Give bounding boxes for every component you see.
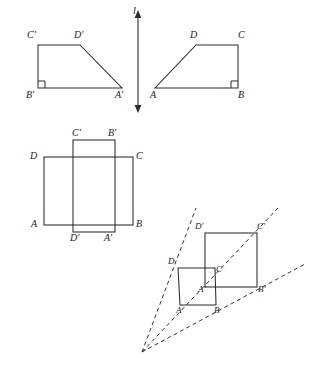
label-b-prime-dilation: B' [258, 285, 265, 294]
dilation-panel [142, 208, 305, 352]
label-d-dilation: D [168, 257, 175, 266]
label-b-square: B [136, 219, 142, 229]
label-a-square: A [31, 219, 37, 229]
label-d-trapezoid: D [190, 30, 197, 40]
trapezoid-preimage-outline [155, 45, 238, 88]
rotation-panel [44, 140, 133, 232]
mirror-line-l [135, 10, 142, 113]
trapezoid-image-outline [38, 45, 122, 88]
label-a-prime-dilation: A' [198, 285, 205, 294]
label-d-square: D [30, 151, 37, 161]
trapezoid-image [38, 45, 122, 88]
geometry-figure-canvas [0, 0, 312, 380]
label-a-prime-square: A' [104, 233, 112, 243]
trapezoid-preimage [155, 45, 238, 88]
label-b-dilation: B [214, 306, 220, 315]
ray-through-d-d-prime [142, 208, 196, 352]
square-abcd-outline [44, 157, 133, 225]
label-line-l: l [133, 6, 136, 17]
label-b-prime-square: B' [108, 128, 116, 138]
projection-rays [142, 208, 305, 352]
label-c-prime-dilation: C' [257, 222, 265, 231]
label-d-prime-trapezoid: D' [74, 30, 83, 40]
square-abcd-prime-outline [73, 140, 115, 232]
label-c-square: C [136, 151, 143, 161]
label-a-trapezoid: A [150, 90, 156, 100]
label-a-prime-trapezoid: A' [115, 90, 123, 100]
large-square-outline [205, 233, 257, 287]
label-b-trapezoid: B [238, 90, 244, 100]
label-d-prime-square: D' [70, 233, 79, 243]
label-c-trapezoid: C [238, 30, 245, 40]
right-angle-marker-b [231, 81, 238, 88]
label-c-prime-square: C' [72, 128, 81, 138]
label-d-prime-dilation: D' [195, 222, 203, 231]
label-a-dilation: A [176, 306, 182, 315]
arrowhead-down-icon [135, 105, 142, 113]
ray-through-b-b-prime [142, 264, 305, 352]
right-angle-marker-b-prime [38, 81, 45, 88]
label-c-prime-trapezoid: C' [27, 30, 36, 40]
label-b-prime-trapezoid: B' [26, 90, 34, 100]
reflection-panel [38, 10, 238, 113]
label-c-dilation: C [216, 265, 222, 274]
